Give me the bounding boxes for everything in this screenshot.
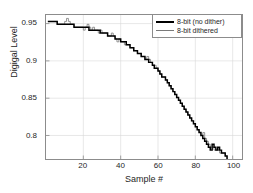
x-tick-label: 20 xyxy=(78,162,87,170)
x-axis-title: Sample # xyxy=(45,174,243,184)
series-line xyxy=(48,18,227,158)
y-axis-tick-labels: 0.80.850.90.95 xyxy=(0,14,42,160)
legend-label: 8-bit (no dither) xyxy=(177,17,224,26)
x-axis-tick-labels: 20406080100 xyxy=(45,162,243,174)
legend-entry: 8-bit (no dither) xyxy=(156,17,238,26)
y-tick-label: 0.95 xyxy=(21,19,37,27)
y-tick-label: 0.85 xyxy=(21,94,37,102)
legend-label: 8-bit dithered xyxy=(177,26,218,35)
x-tick-label: 40 xyxy=(116,162,125,170)
y-axis-title: Digigal Level xyxy=(9,0,19,107)
legend-swatch-icon xyxy=(156,30,174,31)
y-tick-label: 0.9 xyxy=(26,57,37,65)
legend-swatch-icon xyxy=(156,21,174,23)
y-tick-label: 0.8 xyxy=(26,132,37,140)
x-tick-label: 60 xyxy=(154,162,163,170)
chart-figure: 0.80.850.90.95 Digigal Level 20406080100… xyxy=(0,0,253,193)
chart-legend: 8-bit (no dither)8-bit dithered xyxy=(152,14,242,38)
x-tick-label: 80 xyxy=(191,162,200,170)
legend-entry: 8-bit dithered xyxy=(156,26,238,35)
series-line xyxy=(48,21,227,159)
x-tick-label: 100 xyxy=(227,162,240,170)
